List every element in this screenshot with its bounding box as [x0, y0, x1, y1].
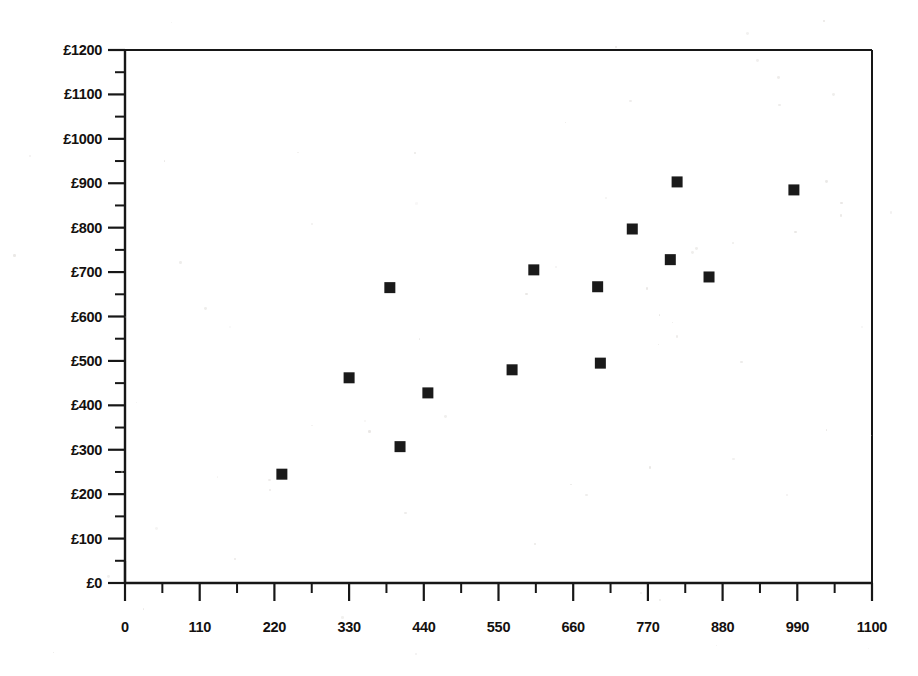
x-axis-tick-label: 1100: [857, 619, 887, 635]
x-axis-tick-label: 110: [188, 619, 211, 635]
y-axis-tick-label: £100: [71, 531, 102, 547]
y-axis-tick-label: £500: [71, 353, 102, 369]
data-point-3: [395, 441, 406, 452]
y-axis-tick-label: £1200: [63, 42, 102, 58]
data-point-12: [704, 271, 715, 282]
data-point-10: [665, 254, 676, 265]
y-axis-tick-label: £900: [71, 175, 102, 191]
data-point-1: [344, 372, 355, 383]
data-point-2: [384, 282, 395, 293]
y-axis-tick-label: £0: [86, 575, 102, 591]
y-axis-tick-label: £400: [71, 397, 102, 413]
x-axis-tick-label: 550: [487, 619, 510, 635]
data-point-4: [422, 387, 433, 398]
y-axis-tick-label: £1100: [64, 86, 102, 102]
x-axis-tick-label: 440: [412, 619, 435, 635]
data-point-6: [528, 264, 539, 275]
x-axis-tick-label: 660: [562, 619, 585, 635]
x-axis-tick-label: 880: [711, 619, 734, 635]
data-point-5: [507, 364, 518, 375]
x-axis-tick-label: 990: [786, 619, 809, 635]
y-axis-tick-label: £600: [71, 309, 102, 325]
data-point-7: [592, 281, 603, 292]
y-axis-tick-label: £1000: [63, 131, 102, 147]
data-point-0: [276, 469, 287, 480]
chart-canvas: [0, 0, 918, 676]
x-axis-tick-label: 0: [121, 619, 129, 635]
scatter-chart: £0£100£200£300£400£500£600£700£800£900£1…: [0, 0, 918, 676]
data-point-11: [672, 176, 683, 187]
y-axis-tick-label: £200: [71, 486, 102, 502]
data-point-13: [788, 184, 799, 195]
x-axis-tick-label: 330: [337, 619, 360, 635]
x-axis-tick-label: 220: [263, 619, 286, 635]
data-point-9: [627, 223, 638, 234]
y-axis-tick-label: £700: [71, 264, 102, 280]
y-axis-tick-label: £800: [71, 220, 102, 236]
data-point-8: [595, 358, 606, 369]
x-axis-tick-label: 770: [636, 619, 659, 635]
y-axis-tick-label: £300: [71, 442, 102, 458]
